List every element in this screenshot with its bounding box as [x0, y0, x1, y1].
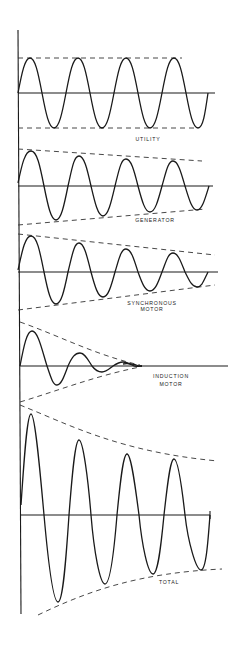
sync-motor-upper-envelope	[18, 234, 215, 255]
generator-upper-envelope	[18, 149, 202, 161]
utility-label: UTILITY	[136, 136, 161, 142]
induction-motor-label-line2: MOTOR	[159, 381, 182, 387]
induction-motor-waveform	[20, 331, 142, 385]
panel-utility: UTILITY	[18, 58, 215, 142]
sync-motor-waveform	[18, 236, 208, 304]
induction-motor-lower-envelope	[20, 367, 140, 402]
sync-motor-label-line2: MOTOR	[140, 306, 163, 312]
total-waveform	[21, 414, 210, 602]
induction-motor-upper-envelope	[20, 322, 140, 365]
generator-lower-envelope	[18, 209, 206, 225]
short-circuit-waveform-diagram: UTILITY GENERATOR SYNCHRONOUS MOTOR INDU…	[0, 0, 238, 646]
total-label: TOTAL	[159, 579, 179, 585]
total-lower-envelope	[38, 569, 222, 615]
generator-label: GENERATOR	[135, 217, 175, 223]
total-upper-envelope	[20, 405, 218, 461]
panel-induction-motor: INDUCTION MOTOR	[20, 322, 228, 402]
panel-synchronous-motor: SYNCHRONOUS MOTOR	[18, 234, 218, 312]
panel-generator: GENERATOR	[18, 149, 213, 225]
panel-total: TOTAL	[20, 405, 222, 615]
induction-motor-label-line1: INDUCTION	[153, 373, 189, 379]
